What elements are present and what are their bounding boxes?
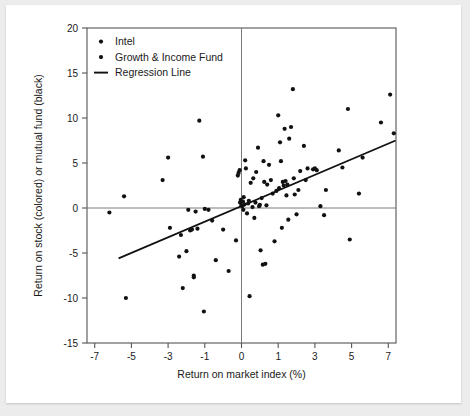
data-point <box>263 262 267 266</box>
x-tick-label: 0 <box>239 351 245 362</box>
legend-label: Regression Line <box>115 66 191 78</box>
data-point <box>346 107 350 111</box>
data-point <box>192 275 196 279</box>
data-point <box>184 249 188 253</box>
data-point <box>161 178 165 182</box>
data-point <box>238 168 242 172</box>
legend-dot-icon <box>99 40 103 44</box>
x-tick-label: 5 <box>349 351 355 362</box>
x-axis-title: Return on market index (%) <box>177 368 305 380</box>
data-point <box>292 176 296 180</box>
data-point <box>254 170 258 174</box>
data-point <box>276 113 280 117</box>
y-tick-label: -15 <box>64 338 79 349</box>
x-tick-label: 3 <box>312 351 318 362</box>
data-point <box>348 237 352 241</box>
data-point <box>234 238 238 242</box>
chart-svg: 20151050-5-10-15-7-5-3-101357Return on m… <box>6 5 461 403</box>
data-point <box>221 228 225 232</box>
data-point <box>177 255 181 259</box>
y-tick-label: 0 <box>72 203 78 214</box>
data-point <box>258 248 262 252</box>
data-point <box>242 195 246 199</box>
data-point <box>181 286 185 290</box>
data-point <box>294 212 298 216</box>
data-point <box>244 166 248 170</box>
data-point <box>287 137 291 141</box>
x-tick-label: -5 <box>127 351 136 362</box>
data-point <box>197 119 201 123</box>
y-tick-label: 5 <box>72 158 78 169</box>
data-point <box>293 192 297 196</box>
data-point <box>357 192 361 196</box>
data-point <box>284 193 288 197</box>
data-point <box>247 294 251 298</box>
data-point <box>392 131 396 135</box>
data-point <box>298 169 302 173</box>
y-tick-label: 20 <box>67 23 79 34</box>
data-point <box>302 144 306 148</box>
y-tick-label: 10 <box>67 113 79 124</box>
legend-dot-icon <box>99 55 103 59</box>
x-tick-label: -1 <box>200 351 209 362</box>
data-point <box>107 210 111 214</box>
data-point <box>194 210 198 214</box>
x-tick-label: -7 <box>90 351 99 362</box>
data-point <box>124 296 128 300</box>
data-point <box>261 159 265 163</box>
y-axis-title: Return on stock (colored) or mutual fund… <box>32 74 44 296</box>
data-point <box>269 178 273 182</box>
data-point <box>195 227 199 231</box>
x-tick-label: -3 <box>164 351 173 362</box>
data-point <box>278 140 282 144</box>
data-point <box>241 208 245 212</box>
data-point <box>324 188 328 192</box>
data-point <box>166 156 170 160</box>
data-point <box>315 168 319 172</box>
data-point <box>249 181 253 185</box>
data-point <box>179 233 183 237</box>
data-point <box>264 203 268 207</box>
data-point <box>206 208 210 212</box>
y-tick-label: -10 <box>64 293 79 304</box>
regression-line <box>119 141 396 259</box>
data-point <box>361 156 365 160</box>
data-point <box>280 226 284 230</box>
data-point <box>318 204 322 208</box>
data-point <box>243 158 247 162</box>
data-point <box>267 163 271 167</box>
figure-panel: 20151050-5-10-15-7-5-3-101357Return on m… <box>6 5 461 403</box>
data-point <box>340 165 344 169</box>
data-point <box>202 309 206 313</box>
data-point <box>201 155 205 159</box>
data-point <box>265 183 269 187</box>
data-point <box>379 120 383 124</box>
data-point <box>256 146 260 150</box>
data-point <box>122 194 126 198</box>
series-points <box>107 87 396 314</box>
data-point <box>245 211 249 215</box>
data-point <box>322 213 326 217</box>
legend-label: Growth & Income Fund <box>115 51 223 63</box>
data-point <box>252 216 256 220</box>
legend-label: Intel <box>115 35 135 47</box>
x-tick-label: 7 <box>386 351 392 362</box>
data-point <box>279 159 283 163</box>
data-point <box>296 188 300 192</box>
data-point <box>258 203 262 207</box>
data-point <box>286 218 290 222</box>
scatter-plot: 20151050-5-10-15-7-5-3-101357Return on m… <box>6 5 461 403</box>
data-point <box>337 148 341 152</box>
data-point <box>251 176 255 180</box>
data-point <box>289 125 293 129</box>
data-point <box>186 208 190 212</box>
data-point <box>203 207 207 211</box>
data-point <box>283 127 287 131</box>
x-tick-label: 1 <box>275 351 281 362</box>
data-point <box>272 239 276 243</box>
data-point <box>305 166 309 170</box>
data-point <box>227 269 231 273</box>
data-point <box>291 87 295 91</box>
data-point <box>388 93 392 97</box>
y-tick-label: 15 <box>67 68 79 79</box>
